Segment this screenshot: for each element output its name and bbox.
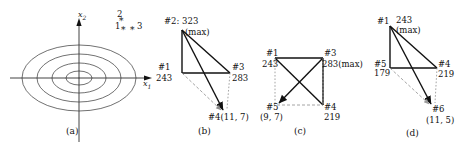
vertex-d-6-tag: #6: [432, 105, 445, 114]
vertex-b-2-label: #2: 323: [164, 17, 198, 26]
panel-d: #1 243 (max) #5 179 #4 219 #6 (11, 5) (d…: [352, 0, 463, 147]
caption-b: (b): [198, 126, 211, 136]
vertex-d-6-value: (11, 5): [426, 116, 454, 125]
vertex-c-5-tag: #5: [266, 103, 279, 112]
figure-root: x2 x1 2 * 1 * * 3 (a): [0, 0, 463, 147]
dotted-3-to-4: [227, 73, 230, 109]
vertex-b-3-value: 283: [232, 74, 248, 83]
vertex-c-4-value: 219: [324, 113, 340, 122]
vertex-b-4-label: #4(11, 7): [208, 113, 249, 122]
vertex-d-1-note: (max): [396, 26, 421, 35]
arrow-2-to-4: [182, 30, 223, 110]
arrow-3-to-5: [279, 58, 323, 103]
panel-a-graphic: [0, 0, 160, 147]
vertex-b-1-value: 243: [156, 74, 172, 83]
vertex-d-4-tag: #4: [438, 60, 451, 69]
vertex-c-5-value: (9, 7): [260, 113, 283, 122]
arrow-1-to-6: [390, 26, 431, 104]
vertex-b-2-note: (max): [185, 28, 210, 37]
simplex-edges: [275, 58, 323, 105]
reflection-arrows: [182, 30, 230, 110]
vertex-d-1-value: 243: [396, 16, 412, 25]
reflection-arrows: [390, 26, 437, 104]
dashed-5-to-6: [390, 68, 429, 104]
point-marker-1: *: [121, 25, 126, 35]
axes: [10, 22, 148, 142]
vertex-b-3-tag: #3: [232, 63, 245, 72]
y-axis-label: x2: [78, 10, 86, 21]
vertex-b-1-tag: #1: [158, 63, 171, 72]
panel-b: #2: 323 (max) #1 243 #3 283 #4(11, 7) (b…: [150, 0, 255, 147]
vertex-d-1-tag: #1: [377, 17, 390, 26]
vertex-c-3-tag: #3: [324, 49, 337, 58]
panel-c: #1 243 #3 283(max) #5 (9, 7) #4 219 (c): [248, 0, 358, 147]
caption-a: (a): [66, 126, 78, 136]
dashed-1-to-4: [182, 73, 221, 110]
point-label-1: 1: [115, 21, 120, 31]
panel-a: x2 x1 2 * 1 * * 3 (a): [0, 0, 160, 147]
caption-c: (c): [294, 126, 306, 136]
caption-d: (d): [406, 128, 419, 138]
point-marker-3: *: [130, 25, 135, 35]
dotted-4-to-6: [435, 68, 437, 103]
point-label-3: 3: [137, 21, 142, 31]
vertex-c-4-tag: #4: [324, 103, 337, 112]
vertex-c-1-value: 243: [262, 60, 278, 69]
vertex-d-4-value: 219: [438, 70, 454, 79]
panel-c-graphic: [248, 0, 358, 147]
vertex-c-1-tag: #1: [266, 49, 279, 58]
vertex-d-5-value: 179: [374, 69, 390, 78]
